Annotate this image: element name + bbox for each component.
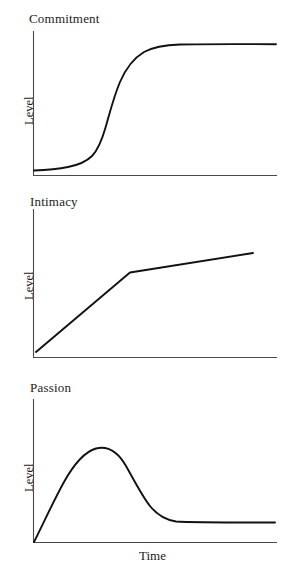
plot-commitment [0,0,287,190]
curve-intimacy [36,253,253,352]
panel-passion: Passion Level [0,370,287,568]
plot-passion [0,370,287,568]
plot-intimacy [0,185,287,370]
curve-passion [34,448,275,542]
x-axis-label-time: Time [139,548,166,563]
curve-commitment [34,44,276,170]
panel-commitment: Commitment Level [0,0,287,190]
panel-intimacy: Intimacy Level [0,185,287,370]
triangular-theory-of-love-figure: Commitment Level Intimacy Level Passion … [0,0,287,568]
